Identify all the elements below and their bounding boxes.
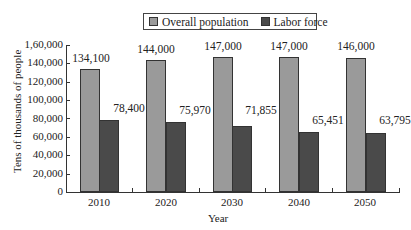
y-tick-label: 40,000 bbox=[33, 149, 63, 160]
y-tick-label: 60,000 bbox=[33, 131, 63, 142]
x-tick-label: 2040 bbox=[279, 196, 319, 208]
y-tick-label: 1,60,000 bbox=[25, 39, 64, 50]
legend-label: Labor force bbox=[274, 16, 328, 28]
value-label: 146,000 bbox=[331, 40, 381, 52]
y-tick bbox=[66, 155, 70, 156]
bar-overall-population-2040 bbox=[279, 57, 299, 192]
x-axis-title: Year bbox=[208, 212, 228, 224]
bar-labor-force-2020 bbox=[166, 122, 186, 192]
y-tick bbox=[66, 82, 70, 83]
bar-overall-population-2020 bbox=[146, 60, 166, 192]
x-tick bbox=[399, 188, 400, 192]
x-tick-label: 2030 bbox=[212, 196, 252, 208]
bar-overall-population-2010 bbox=[80, 69, 100, 192]
value-label: 147,000 bbox=[198, 40, 248, 52]
legend-label: Overall population bbox=[162, 16, 249, 28]
value-label: 134,100 bbox=[66, 52, 116, 64]
bar-overall-population-2050 bbox=[346, 58, 366, 192]
y-tick-label: 80,000 bbox=[33, 113, 63, 124]
y-tick-label: 140,000 bbox=[27, 57, 63, 68]
y-axis-title: Tens of thousands of people bbox=[11, 63, 23, 173]
bar-labor-force-2010 bbox=[99, 120, 119, 192]
value-label: 63,795 bbox=[370, 114, 411, 126]
legend-item-labor-force: Labor force bbox=[261, 16, 328, 28]
y-tick bbox=[66, 137, 70, 138]
y-tick-label: 100,000 bbox=[27, 94, 63, 105]
legend-swatch-labor-force bbox=[261, 17, 270, 26]
x-tick bbox=[132, 188, 133, 192]
legend-item-overall-population: Overall population bbox=[149, 16, 249, 28]
chart-legend: Overall population Labor force bbox=[143, 13, 317, 30]
x-tick-label: 2020 bbox=[146, 196, 186, 208]
y-tick-label: 120,000 bbox=[27, 76, 63, 87]
bar-labor-force-2040 bbox=[299, 132, 319, 192]
bar-labor-force-2050 bbox=[366, 133, 386, 192]
value-label: 147,000 bbox=[264, 40, 314, 52]
bar-overall-population-2030 bbox=[213, 57, 233, 192]
legend-swatch-overall-population bbox=[149, 17, 158, 26]
y-tick bbox=[66, 174, 70, 175]
x-tick bbox=[265, 188, 266, 192]
y-tick bbox=[66, 118, 70, 119]
y-tick bbox=[66, 45, 70, 46]
x-tick bbox=[199, 188, 200, 192]
x-axis bbox=[66, 192, 400, 193]
y-tick-label: 0 bbox=[58, 186, 64, 197]
y-tick-label: 20,000 bbox=[33, 168, 63, 179]
bar-labor-force-2030 bbox=[232, 126, 252, 192]
x-tick bbox=[332, 188, 333, 192]
x-tick-label: 2050 bbox=[345, 196, 385, 208]
value-label: 144,000 bbox=[131, 43, 181, 55]
x-tick-label: 2010 bbox=[79, 196, 119, 208]
y-tick bbox=[66, 100, 70, 101]
